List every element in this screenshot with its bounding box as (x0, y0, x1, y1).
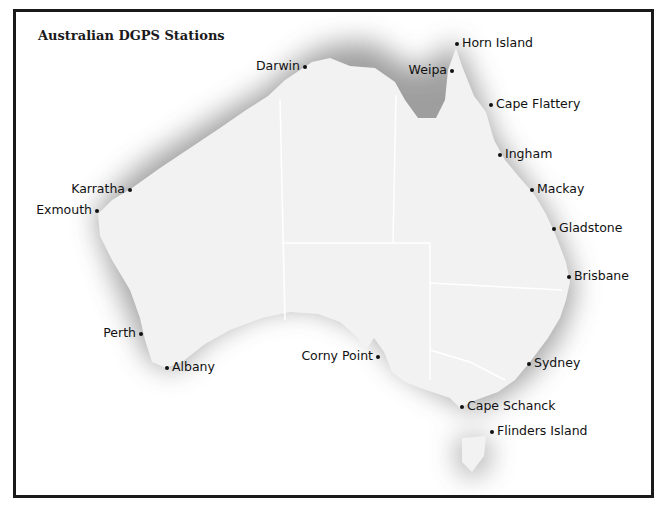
station-marker-icon (498, 153, 502, 157)
station-marker-icon (95, 209, 99, 213)
station-label: Exmouth (36, 203, 92, 217)
station-marker-icon (165, 366, 169, 370)
station-label: Albany (172, 360, 215, 374)
station-marker-icon (530, 188, 534, 192)
station-marker-icon (128, 188, 132, 192)
station-marker-icon (567, 275, 571, 279)
station-marker-icon (489, 103, 493, 107)
station-marker-icon (490, 430, 494, 434)
station-marker-icon (139, 332, 143, 336)
station-label: Sydney (534, 356, 580, 370)
station-label: Ingham (505, 147, 552, 161)
station-marker-icon (460, 405, 464, 409)
station-marker-icon (303, 65, 307, 69)
station-marker-icon (527, 362, 531, 366)
station-marker-icon (450, 69, 454, 73)
station-label: Horn Island (462, 36, 533, 50)
station-label: Corny Point (301, 349, 373, 363)
station-label: Cape Schanck (467, 399, 555, 413)
station-marker-icon (455, 42, 459, 46)
station-label: Darwin (256, 59, 300, 73)
station-label: Brisbane (574, 269, 629, 283)
station-marker-icon (376, 355, 380, 359)
station-label: Gladstone (559, 221, 622, 235)
station-marker-icon (552, 227, 556, 231)
station-label: Flinders Island (497, 424, 588, 438)
station-label: Weipa (409, 63, 447, 77)
station-label: Perth (103, 326, 136, 340)
map-title: Australian DGPS Stations (38, 28, 225, 43)
station-label: Karratha (71, 182, 125, 196)
station-label: Cape Flattery (496, 97, 580, 111)
station-label: Mackay (537, 182, 584, 196)
